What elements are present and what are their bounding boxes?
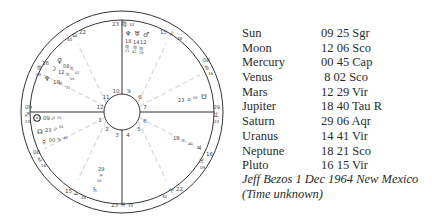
- table-row: Saturn29 06 Aqr: [242, 114, 432, 129]
- scorpio-icon: ♏: [37, 64, 43, 71]
- svg-text:16: 16: [206, 151, 213, 157]
- svg-text:08: 08: [33, 149, 40, 155]
- svg-text:7: 7: [143, 104, 147, 110]
- svg-text:3: 3: [115, 132, 119, 138]
- svg-text:40: 40: [188, 142, 192, 146]
- svg-text:♒: ♒: [99, 173, 103, 178]
- svg-text:24: 24: [25, 119, 31, 124]
- svg-text:05: 05: [193, 96, 197, 100]
- svg-text:05: 05: [59, 125, 63, 129]
- svg-text:18: 18: [173, 135, 179, 141]
- svg-text:34: 34: [128, 203, 134, 208]
- svg-text:♉: ♉: [181, 138, 185, 143]
- aquarius-icon: ♒: [73, 190, 78, 197]
- caption-note: (Time unknown): [242, 187, 418, 202]
- planet-cluster-top: ♆ ♅ ♂ 18 14 12 ♍ ♍ ♍ 21 41 29: [125, 30, 149, 55]
- cusp-lower-left: 15 ♒ 48: [65, 188, 87, 200]
- uranus-icon: ♅: [134, 30, 140, 38]
- cusp-upper-left: ♎ 22 40: [67, 29, 86, 42]
- svg-text:40: 40: [162, 194, 168, 199]
- svg-text:09: 09: [25, 104, 32, 110]
- moon-icon: ☽: [50, 65, 56, 73]
- svg-text:09: 09: [43, 115, 50, 121]
- taurus-icon: ♉: [199, 157, 204, 164]
- svg-text:16: 16: [42, 60, 49, 66]
- svg-text:23: 23: [178, 97, 184, 103]
- svg-text:23: 23: [111, 202, 118, 208]
- planet-cluster-left: 09 ♐ 25 ☊ 23 ♐ 05 ☿ 00 ♑ 45: [34, 115, 68, 146]
- svg-text:1: 1: [98, 117, 102, 123]
- table-row: Moon12 06 Sco: [242, 41, 432, 56]
- mars-icon: ♂: [143, 31, 149, 39]
- svg-text:40: 40: [67, 37, 73, 42]
- svg-text:00: 00: [49, 137, 55, 143]
- cusp-left: 09 ♐ 24: [24, 104, 32, 124]
- table-row: Neptune18 21 Sco: [242, 144, 432, 159]
- aries-icon: ♈: [169, 187, 175, 194]
- svg-text:25: 25: [57, 116, 61, 120]
- svg-text:12: 12: [58, 69, 64, 75]
- svg-text:♏: ♏: [70, 66, 74, 71]
- gemini-icon: ♊: [213, 111, 218, 118]
- mercury-icon: ☿: [42, 138, 46, 146]
- planet-positions-table: Sun09 25 Sgr Moon12 06 Sco Mercury00 45 …: [242, 26, 432, 173]
- svg-text:11: 11: [103, 94, 110, 100]
- svg-text:12: 12: [97, 104, 104, 110]
- svg-text:24: 24: [214, 119, 220, 124]
- svg-text:21: 21: [125, 49, 129, 53]
- svg-text:♐: ♐: [51, 116, 55, 121]
- svg-text:09: 09: [200, 165, 206, 170]
- south-node-icon: ☋: [201, 93, 207, 101]
- saturn-icon: ♄: [92, 186, 98, 194]
- svg-text:48: 48: [81, 195, 87, 200]
- table-row: Venus 8 02 Sco: [242, 70, 432, 85]
- svg-text:6: 6: [143, 118, 147, 124]
- cusp-right: 09 ♊ 24: [213, 104, 220, 124]
- pisces-icon: ♓: [120, 201, 126, 209]
- svg-text:34: 34: [129, 22, 135, 27]
- north-node-icon: ☊: [37, 128, 43, 136]
- table-row: Mercury00 45 Cap: [242, 55, 432, 70]
- svg-text:♊: ♊: [187, 97, 191, 102]
- table-row: Pluto16 15 Vir: [242, 158, 432, 173]
- jupiter-icon: ♃: [196, 144, 202, 152]
- svg-text:06: 06: [97, 179, 101, 183]
- svg-text:8: 8: [138, 94, 142, 100]
- caption-title: Jeff Bezos 1 Dec 1964 New Mexico: [242, 172, 418, 187]
- planet-south-node: 23 ♊ 05 ☋: [178, 93, 207, 103]
- svg-text:♏: ♏: [59, 81, 63, 86]
- svg-text:22: 22: [176, 186, 183, 192]
- svg-text:29: 29: [139, 51, 143, 55]
- svg-text:4: 4: [126, 132, 130, 138]
- table-row: Uranus14 41 Vir: [242, 129, 432, 144]
- cusp-left-lower: 08 ♑ 16: [33, 149, 47, 168]
- svg-text:45: 45: [63, 136, 67, 140]
- svg-text:5: 5: [137, 126, 141, 132]
- cusp-bottom: 23 ♓ 34: [111, 201, 134, 209]
- neptune-icon: ♆: [44, 75, 50, 83]
- svg-text:09: 09: [36, 72, 42, 77]
- natal-chart-wheel: 1 2 3 4 5 6 7 8 9 10 11 12 23 ♍ 34 23 ♓ …: [0, 0, 240, 221]
- svg-text:41: 41: [132, 50, 136, 54]
- svg-text:2: 2: [105, 126, 109, 132]
- svg-text:♐: ♐: [53, 127, 57, 132]
- table-row: Mars12 29 Vir: [242, 85, 432, 100]
- svg-text:02: 02: [75, 71, 79, 75]
- svg-text:06: 06: [70, 77, 74, 81]
- cusp-upper-right: 15 ♌ 48: [160, 29, 183, 41]
- svg-text:15: 15: [65, 188, 72, 194]
- planet-saturn: 29 ♒ 06 ♄: [92, 166, 104, 194]
- svg-text:23: 23: [45, 127, 51, 133]
- svg-text:23: 23: [112, 21, 119, 27]
- cancer-icon: ♋: [204, 64, 209, 71]
- svg-text:10: 10: [113, 88, 120, 94]
- svg-text:12: 12: [140, 39, 146, 45]
- svg-text:29: 29: [98, 166, 104, 172]
- svg-text:15: 15: [160, 29, 167, 35]
- venus-icon: ♀: [57, 57, 62, 65]
- svg-text:08: 08: [203, 57, 210, 63]
- svg-text:22: 22: [79, 29, 86, 35]
- table-row: Sun09 25 Sgr: [242, 26, 432, 41]
- svg-text:9: 9: [127, 88, 131, 94]
- leo-icon: ♌: [169, 30, 174, 37]
